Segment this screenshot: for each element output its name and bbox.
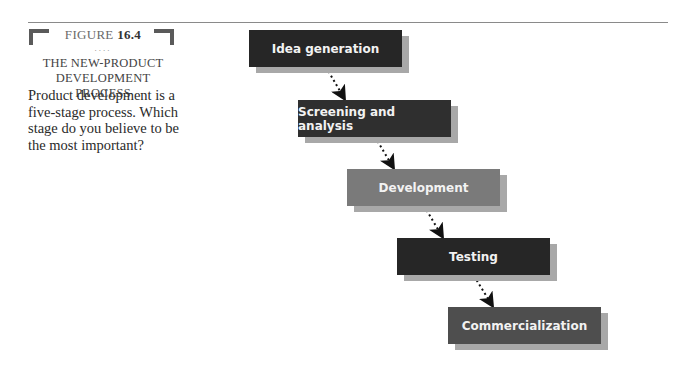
stage-box: Testing [397, 238, 550, 275]
stage-development: Development [347, 169, 500, 206]
stage-box: Idea generation [249, 30, 402, 67]
stage-box: Development [347, 169, 500, 206]
stage-box: Commercialization [448, 307, 601, 344]
stage-screening-analysis: Screening and analysis [298, 100, 451, 137]
stage-box: Screening and analysis [298, 100, 451, 137]
stage-testing: Testing [397, 238, 550, 275]
stage-idea-generation: Idea generation [249, 30, 402, 67]
stage-commercialization: Commercialization [448, 307, 601, 344]
